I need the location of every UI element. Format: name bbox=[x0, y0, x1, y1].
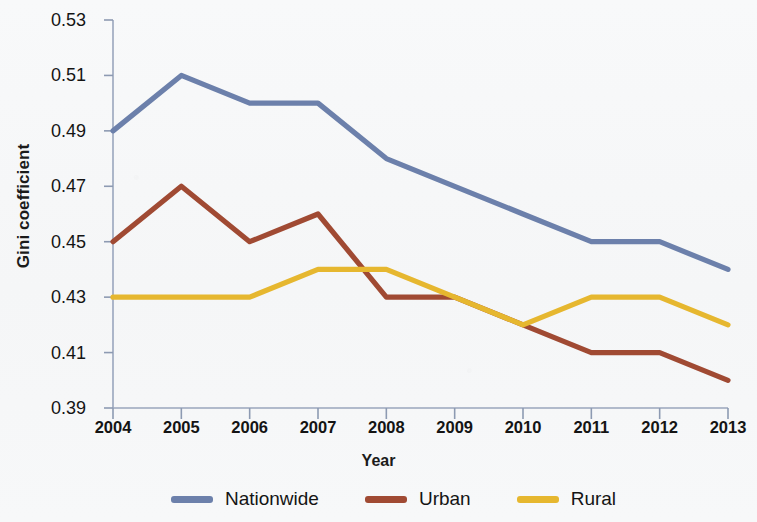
legend-swatch-icon bbox=[171, 496, 213, 503]
series-line-nationwide bbox=[113, 75, 728, 269]
line-chart: Gini coefficient 0.530.510.490.470.450.4… bbox=[0, 0, 757, 522]
legend-item-nationwide[interactable]: Nationwide bbox=[171, 488, 319, 510]
legend-label: Nationwide bbox=[225, 488, 319, 510]
legend-item-urban[interactable]: Urban bbox=[365, 488, 471, 510]
chart-legend: NationwideUrbanRural bbox=[0, 488, 757, 510]
axis-lines bbox=[113, 20, 728, 408]
legend-swatch-icon bbox=[365, 496, 407, 503]
legend-item-rural[interactable]: Rural bbox=[517, 488, 616, 510]
plot-area bbox=[0, 0, 757, 522]
legend-swatch-icon bbox=[517, 496, 559, 503]
x-axis-title: Year bbox=[0, 452, 757, 470]
legend-label: Urban bbox=[419, 488, 471, 510]
legend-label: Rural bbox=[571, 488, 616, 510]
series-lines bbox=[113, 75, 728, 380]
